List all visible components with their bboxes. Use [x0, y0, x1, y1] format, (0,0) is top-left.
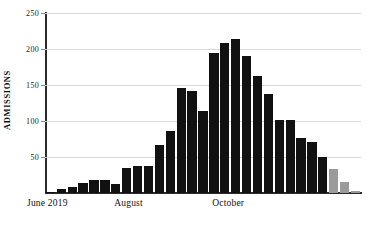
x-axis-tick-label: October — [212, 198, 244, 208]
y-axis-tick-label: 150 — [26, 81, 39, 90]
y-axis-tick-label: 250 — [26, 9, 39, 18]
bar — [198, 111, 207, 193]
bar — [318, 157, 327, 193]
x-axis-tick-label: June 2019 — [27, 198, 68, 208]
plot-area — [45, 13, 361, 193]
bar — [220, 43, 229, 193]
bar — [89, 180, 98, 193]
bar-chart: ADMISSIONS 25020015010050 June 2019Augus… — [0, 0, 367, 228]
bar — [329, 169, 338, 193]
bar — [144, 166, 153, 193]
bar — [209, 53, 218, 193]
bar — [340, 182, 349, 193]
bar — [155, 145, 164, 193]
bar — [166, 131, 175, 193]
bar — [242, 56, 251, 193]
bar — [100, 180, 109, 193]
bar — [122, 168, 131, 193]
bar — [264, 94, 273, 193]
y-axis-tick-labels: 25020015010050 — [14, 0, 42, 200]
bar — [351, 191, 360, 193]
bar — [78, 183, 87, 193]
y-axis-title: ADMISSIONS — [0, 0, 14, 200]
x-axis-tick-labels: June 2019AugustOctober — [0, 198, 367, 222]
bar — [111, 184, 120, 193]
y-axis-tick-label: 200 — [26, 45, 39, 54]
bar — [307, 142, 316, 193]
bar — [296, 138, 305, 193]
bar — [253, 76, 262, 193]
bar — [133, 166, 142, 193]
x-axis-tick-label: August — [114, 198, 143, 208]
bar — [57, 189, 66, 193]
bar — [177, 88, 186, 193]
bar — [231, 39, 240, 193]
y-axis-tick-label: 50 — [30, 153, 39, 162]
bars-layer — [45, 13, 361, 193]
y-axis-tick-label: 100 — [26, 117, 39, 126]
bar — [187, 91, 196, 193]
bar — [46, 192, 55, 193]
y-axis-title-text: ADMISSIONS — [2, 70, 12, 130]
bar — [286, 120, 295, 193]
bar — [275, 120, 284, 193]
bar — [68, 187, 77, 193]
